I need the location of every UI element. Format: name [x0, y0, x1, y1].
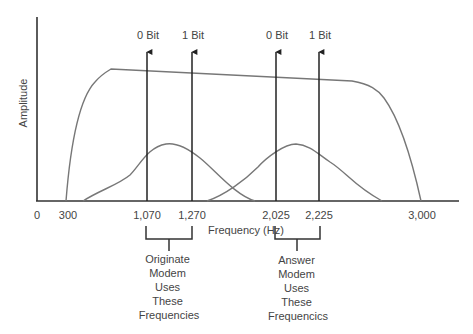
answer-band-curve	[207, 144, 382, 201]
y-axis-label: Amplitude	[17, 79, 29, 128]
x-tick-2025: 2,025	[262, 209, 290, 221]
fsk-frequency-diagram: Amplitude Frequency (Hz) 0 300 1,070 1,2…	[0, 0, 473, 334]
x-tick-300: 300	[59, 209, 77, 221]
x-tick-0: 0	[34, 209, 40, 221]
passband-curve	[66, 69, 421, 201]
x-tick-3000: 3,000	[408, 209, 436, 221]
carrier-label-0-bit-originate: 0 Bit	[137, 29, 159, 41]
carrier-label-1-bit-answer: 1 Bit	[309, 29, 331, 41]
x-tick-2225: 2,225	[305, 209, 333, 221]
carrier-label-0-bit-answer: 0 Bit	[266, 29, 288, 41]
axes: Amplitude Frequency (Hz)	[17, 17, 459, 236]
x-tick-1270: 1,270	[178, 209, 206, 221]
originate-bracket: Originate Modem Uses These Frequencies	[139, 226, 200, 321]
originate-bracket-line	[146, 226, 192, 251]
x-tick-labels: 0 300 1,070 1,270 2,025 2,225 3,000	[34, 209, 436, 221]
answer-bracket-label: Answer Modem Uses These Frequencics	[268, 254, 328, 322]
carrier-labels: 0 Bit 1 Bit 0 Bit 1 Bit	[137, 29, 331, 41]
x-tick-1070: 1,070	[133, 209, 161, 221]
carrier-arrows	[147, 52, 319, 201]
answer-bracket: Answer Modem Uses These Frequencics	[268, 226, 328, 322]
originate-band-curve	[83, 144, 255, 201]
carrier-label-1-bit-originate: 1 Bit	[182, 29, 204, 41]
x-axis-label: Frequency (Hz)	[208, 224, 284, 236]
originate-bracket-label: Originate Modem Uses These Frequencies	[139, 253, 200, 321]
